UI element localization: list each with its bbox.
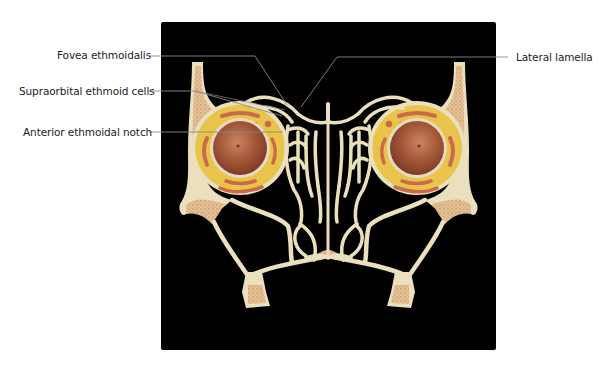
- label-lateral-lamella: Lateral lamella: [516, 51, 593, 63]
- label-fovea-ethmoidalis: Fovea ethmoidalis: [57, 49, 151, 61]
- label-supraorbital-ethmoid-cells: Supraorbital ethmoid cells: [19, 85, 155, 97]
- label-anterior-ethmoidal-notch: Anterior ethmoidal notch: [23, 126, 152, 138]
